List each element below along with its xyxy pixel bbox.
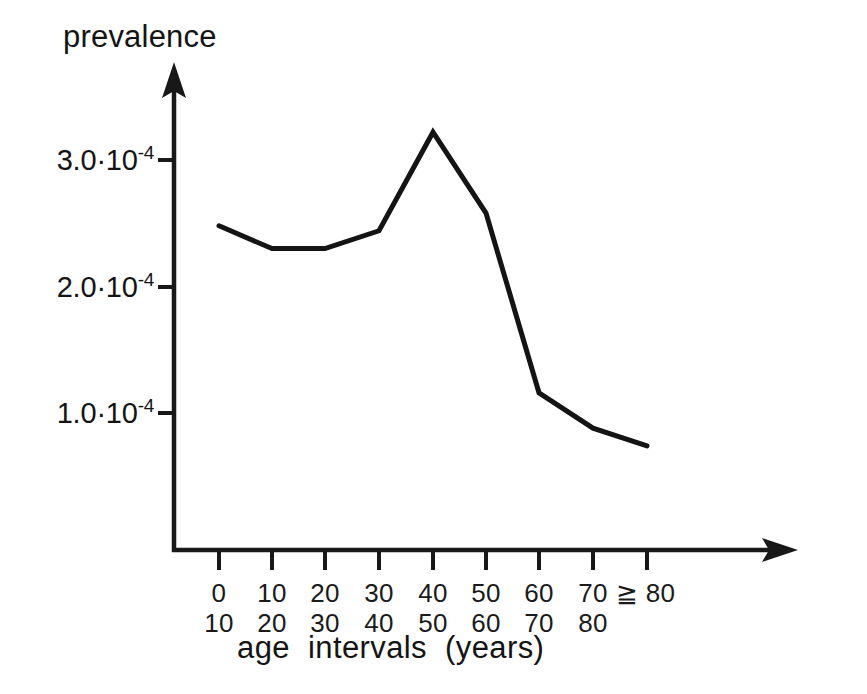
prevalence-series-line bbox=[219, 132, 647, 446]
y-tick-label-2-exponent: -4 bbox=[138, 269, 154, 290]
y-tick-label-3-mantissa: 3.0·10 bbox=[57, 144, 138, 176]
y-tick-label-1-mantissa: 1.0·10 bbox=[57, 397, 138, 429]
y-tick-label-1: 1.0·10-4 bbox=[22, 399, 154, 428]
y-tick-label-2: 2.0·10-4 bbox=[22, 273, 154, 302]
x-axis-title: age intervals (years) bbox=[237, 632, 544, 663]
y-tick-label-2-mantissa: 2.0·10 bbox=[57, 271, 138, 303]
x-tick-label-8: ≧ 80 bbox=[616, 578, 708, 608]
prevalence-age-chart: prevalence 3.0·10-4 2.0·10-4 1.0·10-4 0 … bbox=[0, 0, 867, 694]
y-tick-label-3: 3.0·10-4 bbox=[22, 146, 154, 175]
x-tick-label-8-top: ≧ 80 bbox=[616, 578, 708, 608]
y-tick-label-1-exponent: -4 bbox=[138, 395, 154, 416]
y-tick-label-3-exponent: -4 bbox=[138, 142, 154, 163]
y-axis-title: prevalence bbox=[63, 21, 217, 52]
x-tick-label-7-bottom: 80 bbox=[558, 608, 628, 638]
